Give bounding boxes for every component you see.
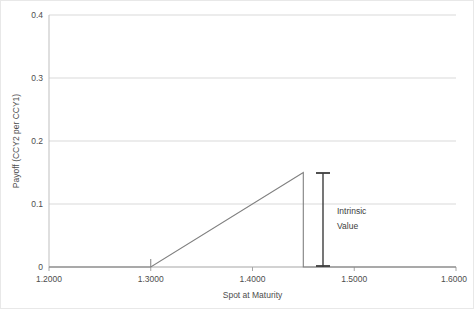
y-axis-title: Payoff (CCY2 per CCY1): [11, 94, 21, 188]
x-tick-label-1.6000: 1.6000: [441, 274, 467, 284]
x-tick-label-1.5000: 1.5000: [341, 274, 367, 284]
intrinsic-value-label-line2: Value: [337, 221, 358, 231]
x-axis-title: Spot at Maturity: [223, 290, 283, 300]
x-tick-label-1.2000: 1.2000: [36, 274, 62, 284]
y-tick-label-0.3: 0.3: [31, 73, 43, 83]
y-axis-tick-labels: 0.4 0.3 0.2 0.1 0: [31, 10, 43, 272]
x-axis-tick-labels: 1.2000 1.3000 1.4000 1.5000 1.6000: [36, 274, 467, 284]
chart-canvas: 0.4 0.3 0.2 0.1 0 1.2000 1.3000 1.4000 1…: [1, 1, 474, 309]
y-tick-label-0: 0: [38, 262, 43, 272]
x-tick-label-1.4000: 1.4000: [240, 274, 266, 284]
chart-page: 0.4 0.3 0.2 0.1 0 1.2000 1.3000 1.4000 1…: [0, 0, 474, 309]
intrinsic-value-label: Intrinsic Value: [337, 206, 367, 231]
x-tick-label-1.3000: 1.3000: [138, 274, 164, 284]
intrinsic-value-bar: [316, 173, 330, 267]
payoff-line: [49, 173, 456, 268]
y-tick-label-0.4: 0.4: [31, 10, 43, 20]
y-tick-label-0.1: 0.1: [31, 199, 43, 209]
intrinsic-value-label-line1: Intrinsic: [337, 206, 367, 216]
y-tick-label-0.2: 0.2: [31, 136, 43, 146]
gridlines-horizontal: [49, 15, 456, 204]
payoff-chart: 0.4 0.3 0.2 0.1 0 1.2000 1.3000 1.4000 1…: [1, 1, 473, 308]
